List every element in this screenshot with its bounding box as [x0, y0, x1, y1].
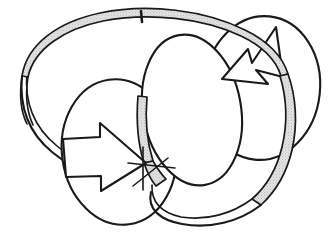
band-tick-mark	[141, 11, 142, 22]
tick-stroke	[141, 11, 142, 22]
topology-diagram	[0, 0, 330, 237]
figure-canvas	[0, 0, 330, 237]
